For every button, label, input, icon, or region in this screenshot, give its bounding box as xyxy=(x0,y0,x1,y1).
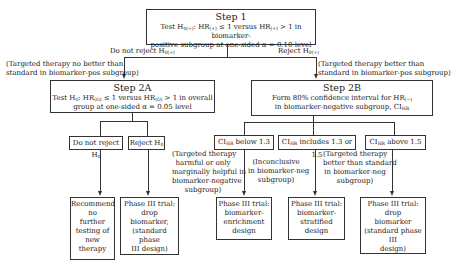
ci-includes-box: CIHR includes 1.3 or 1.5 xyxy=(278,135,356,150)
arrow-icon xyxy=(98,191,102,196)
outcome-recommend-box: Recommend no further testing of new ther… xyxy=(70,197,115,260)
outcome-drop-biomarker-left-box: Phase III trial: drop biomarker, (standa… xyxy=(120,197,179,255)
branch-left-note: (Targeted therapy no better than standar… xyxy=(6,60,139,78)
arrow-icon xyxy=(313,191,317,196)
connector xyxy=(316,57,317,75)
reject-label: Reject H0(+) xyxy=(278,47,319,56)
connector xyxy=(244,122,395,123)
outcome-drop-biomarker-right-box: Phase III trial: drop biomarker (standar… xyxy=(360,197,426,254)
connector xyxy=(100,121,101,136)
ci-above-note: (Targeted therapy better than standard i… xyxy=(323,150,387,186)
ci-includes-note: (Inconclusive in biomarker-neg subgroup) xyxy=(248,158,304,185)
connector xyxy=(100,121,148,122)
connector xyxy=(315,150,316,192)
arrow-icon xyxy=(390,191,394,196)
connector xyxy=(313,122,314,135)
connector xyxy=(148,150,149,192)
connector xyxy=(100,150,101,192)
step1-title: Step 1 xyxy=(147,11,315,23)
step2b-line2: in biomarker-negative subgroup, CIHR xyxy=(252,103,432,112)
ci-above-box: CIHR above 1.5 xyxy=(365,135,426,150)
step1-hypothesis: Test H0(+): HR(+) ≤ 1 versus HR(+) > 1 i… xyxy=(147,23,315,41)
outcome-stratified-box: Phase III trial: biomarker- stratified d… xyxy=(288,197,345,240)
arrow-icon xyxy=(242,191,246,196)
step2b-box: Step 2B Form 80% confidence interval for… xyxy=(251,80,433,116)
step2b-line1: Form 80% confidence interval for HR(−) xyxy=(252,94,432,103)
connector xyxy=(124,57,317,58)
connector xyxy=(394,122,395,135)
connector xyxy=(147,121,148,136)
reject-h0-box: Reject H0 xyxy=(128,136,165,150)
connector xyxy=(392,150,393,192)
step2a-title: Step 2A xyxy=(51,82,214,94)
step2a-level: group at one-sided α = 0.05 level xyxy=(51,103,214,112)
ci-below-note: (Targeted therapy harmful or only margin… xyxy=(172,150,234,195)
step2a-box: Step 2A Test H0: HR(O) ≤ 1 versus HR(O) … xyxy=(50,80,215,113)
step2b-title: Step 2B xyxy=(252,82,432,94)
arrow-icon xyxy=(146,191,150,196)
step2a-hypothesis: Test H0: HR(O) ≤ 1 versus HR(O) > 1 in o… xyxy=(51,94,214,103)
ci-below-box: CIHR below 1.3 xyxy=(214,135,274,150)
connector xyxy=(244,122,245,135)
branch-right-note: (Targeted therapy better than standard i… xyxy=(318,60,451,78)
step1-box: Step 1 Test H0(+): HR(+) ≤ 1 versus HR(+… xyxy=(146,9,316,45)
connector xyxy=(244,150,245,192)
do-not-reject-label: Do not reject H0(+) xyxy=(110,47,175,56)
outcome-enrichment-box: Phase III trial: biomarker- enrichment d… xyxy=(216,197,272,240)
do-not-reject-h0-box: Do not reject H0 xyxy=(69,136,123,150)
